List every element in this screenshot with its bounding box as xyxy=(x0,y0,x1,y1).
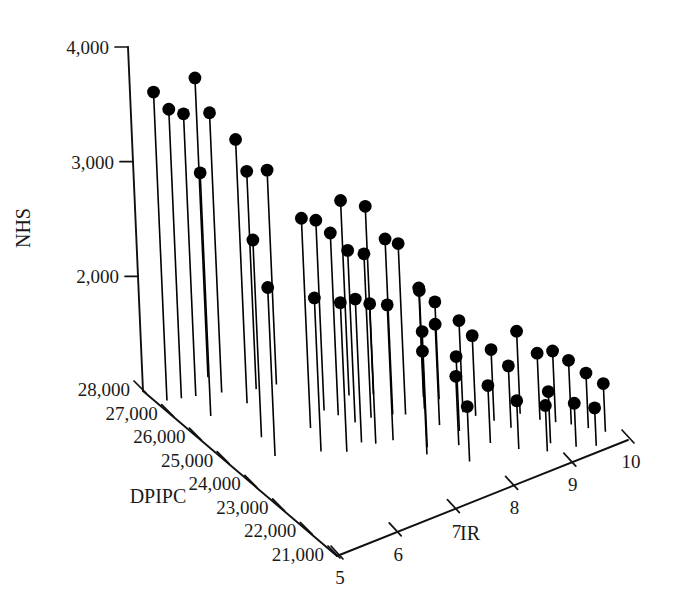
ir-axis-line xyxy=(337,440,628,556)
dpipc-tick xyxy=(217,452,229,464)
stem-line xyxy=(184,114,196,396)
data-point-marker xyxy=(229,133,242,146)
stem-line xyxy=(330,233,338,415)
stem-line xyxy=(316,220,324,410)
dpipc-tick xyxy=(162,405,174,417)
data-point-marker xyxy=(309,214,322,227)
dpipc-tick-label: 28,000 xyxy=(78,379,130,400)
stem-line xyxy=(355,299,361,442)
data-point-marker xyxy=(246,234,259,247)
dpipc-tick-label: 22,000 xyxy=(244,520,296,541)
stem-line xyxy=(200,173,211,416)
data-point-marker xyxy=(542,385,555,398)
data-point-marker xyxy=(341,244,354,257)
data-point-marker xyxy=(334,194,347,207)
stem-line xyxy=(210,113,222,393)
nhs-tick-label: 4,000 xyxy=(66,37,109,58)
stem-line xyxy=(586,373,588,428)
nhs-axis-title: NHS xyxy=(12,208,34,248)
data-point-marker xyxy=(580,367,593,380)
data-point-marker xyxy=(308,292,321,305)
dpipc-tick-label: 21,000 xyxy=(272,544,324,565)
data-point-marker xyxy=(379,233,392,246)
stem-line xyxy=(435,324,439,425)
stem-line xyxy=(553,351,556,422)
data-point-marker xyxy=(162,103,175,116)
data-point-marker xyxy=(461,400,474,413)
data-point-marker xyxy=(539,399,552,412)
data-point-marker xyxy=(334,296,347,309)
data-point-marker xyxy=(416,345,429,358)
plot-canvas: 2,0003,0004,000NHS28,00027,00026,00025,0… xyxy=(0,0,690,612)
data-point-marker xyxy=(147,86,160,99)
ir-tick-label: 10 xyxy=(622,451,641,472)
stem-line xyxy=(195,78,208,377)
stem-line xyxy=(154,92,167,400)
dpipc-tick xyxy=(245,475,257,487)
dpipc-tick xyxy=(134,381,146,393)
stem-line xyxy=(548,392,550,444)
data-point-marker xyxy=(531,347,544,360)
data-point-marker xyxy=(240,165,253,178)
data-point-marker xyxy=(381,298,394,311)
stem-line xyxy=(370,304,376,444)
dpipc-tick-label: 23,000 xyxy=(216,497,268,518)
stem-line xyxy=(422,351,427,454)
dpipc-tick-label: 26,000 xyxy=(133,426,185,447)
data-point-marker xyxy=(466,329,479,342)
stem-line xyxy=(569,360,572,424)
data-point-marker xyxy=(429,318,442,331)
data-point-marker xyxy=(261,281,274,294)
stem-line xyxy=(348,250,356,422)
dpipc-tick xyxy=(300,522,312,534)
stem-line xyxy=(236,139,248,403)
data-point-marker xyxy=(324,227,337,240)
ir-tick-label: 6 xyxy=(393,544,403,565)
stem-line xyxy=(467,407,469,462)
data-point-marker xyxy=(203,106,216,119)
data-point-marker xyxy=(453,314,466,327)
data-point-marker xyxy=(588,401,601,414)
dpipc-tick-label: 27,000 xyxy=(105,403,157,424)
dpipc-tick-label: 24,000 xyxy=(189,473,241,494)
data-point-marker xyxy=(597,377,610,390)
data-point-marker xyxy=(413,284,426,297)
data-point-marker xyxy=(189,72,202,85)
chart-3d-stem-plot: 2,0003,0004,000NHS28,00027,00026,00025,0… xyxy=(0,0,690,612)
data-point-marker xyxy=(363,297,376,310)
stem-line xyxy=(488,386,491,443)
data-point-marker xyxy=(177,107,190,120)
data-point-marker xyxy=(358,247,371,260)
ir-axis-title: IR xyxy=(460,522,481,544)
stem-line xyxy=(545,406,547,452)
stem-line xyxy=(387,305,393,440)
data-point-marker xyxy=(546,345,559,358)
data-point-marker xyxy=(450,350,463,363)
stem-line xyxy=(508,366,511,428)
dpipc-axis-title: DPIPC xyxy=(130,485,187,507)
stem-line xyxy=(169,109,182,398)
nhs-tick-label: 2,000 xyxy=(76,266,119,287)
stem-line xyxy=(301,218,310,428)
data-point-marker xyxy=(359,200,372,213)
stem-line xyxy=(574,403,576,447)
data-point-marker xyxy=(510,325,523,338)
data-point-marker xyxy=(485,343,498,356)
stem-line xyxy=(398,244,405,415)
nhs-axis-line xyxy=(128,47,143,391)
data-point-marker xyxy=(261,164,274,177)
data-point-marker xyxy=(482,379,495,392)
data-point-marker xyxy=(416,325,429,338)
data-point-marker xyxy=(502,359,515,372)
dpipc-tick xyxy=(273,499,285,511)
data-point-marker xyxy=(510,394,523,407)
nhs-tick-label: 3,000 xyxy=(71,152,114,173)
stem-line xyxy=(459,321,463,413)
stem-line xyxy=(517,401,519,449)
stem-line xyxy=(267,170,276,384)
ir-tick-label: 8 xyxy=(510,497,520,518)
ir-tick-label: 5 xyxy=(335,567,345,588)
stem-line xyxy=(537,353,540,420)
data-point-marker xyxy=(568,397,581,410)
data-point-marker xyxy=(392,237,405,250)
